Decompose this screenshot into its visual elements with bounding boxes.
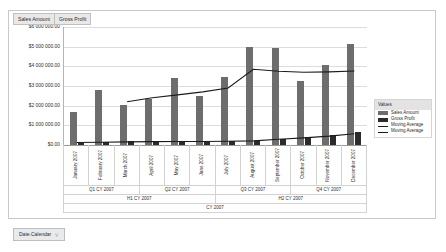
measure-pill-sales-amount[interactable]: Sales Amount (13, 13, 55, 25)
x-axis-group-cell[interactable]: Q4 CY 2007 (291, 186, 367, 195)
x-axis-label: Q3 CY 2007 (241, 188, 266, 193)
x-axis-month-cell[interactable]: June 2007 (190, 145, 215, 186)
x-axis-month-cell[interactable]: July 2007 (216, 145, 241, 186)
legend-items: Sales AmountGross ProfitMoving AverageMo… (375, 110, 431, 134)
x-axis-quarters-row: Q1 CY 2007Q2 CY 2007Q3 CY 2007Q4 CY 2007 (63, 186, 367, 195)
legend-bar-swatch-icon (378, 111, 388, 115)
x-axis-month-cell[interactable]: April 2007 (140, 145, 165, 186)
x-axis-label: July 2007 (225, 155, 230, 175)
x-axis-label: February 2007 (99, 150, 104, 180)
legend-line-swatch-icon (378, 132, 388, 133)
x-axis-hierarchy: January 2007February 2007March 2007April… (63, 145, 367, 213)
x-axis-month-cell[interactable]: January 2007 (63, 145, 89, 186)
y-axis-tick-label: $1 000 000.00 (29, 123, 60, 128)
legend-item[interactable]: Moving Average (375, 128, 431, 134)
x-axis-group-cell[interactable]: H2 CY 2007 (216, 195, 368, 204)
x-axis-label: October 2007 (301, 151, 306, 179)
x-axis-month-cell[interactable]: March 2007 (115, 145, 140, 186)
measure-pill-gross-profit[interactable]: Gross Profit (55, 13, 91, 25)
legend-line-swatch-icon (378, 126, 388, 127)
x-axis-label: September 2007 (276, 148, 281, 182)
moving-average-lines (64, 27, 367, 145)
x-axis-month-cell[interactable]: October 2007 (291, 145, 316, 186)
y-axis-tick-label: $0.00 (48, 143, 60, 148)
x-axis-group-cell[interactable]: Q1 CY 2007 (63, 186, 140, 195)
x-axis-label: June 2007 (200, 154, 205, 175)
x-axis-month-cell[interactable]: December 2007 (342, 145, 367, 186)
x-axis-label: Q4 CY 2007 (316, 188, 341, 193)
x-axis-label: December 2007 (352, 149, 357, 182)
x-axis-group-cell[interactable]: CY 2007 (63, 204, 367, 213)
x-axis-label: CY 2007 (206, 206, 223, 211)
filter-hierarchy-icon[interactable]: ⑂ (55, 232, 59, 238)
x-axis-month-cell[interactable]: May 2007 (165, 145, 190, 186)
y-axis-tick-label: $3 000 000.00 (29, 84, 60, 89)
legend-label: Gross Profit (391, 117, 415, 122)
x-axis-year-row: CY 2007 (63, 204, 367, 213)
x-axis-label: March 2007 (124, 153, 129, 177)
y-axis-tick-label: $4 000 000.00 (29, 64, 60, 69)
x-axis-month-cell[interactable]: August 2007 (241, 145, 266, 186)
y-axis-tick-label: $6 000 000.00 (29, 25, 60, 30)
legend-label: Moving Average (391, 123, 423, 128)
moving-average-line-1 (127, 69, 354, 101)
x-axis-label: Q1 CY 2007 (89, 188, 114, 193)
x-axis-label: April 2007 (150, 155, 155, 176)
y-axis: $6 000 000.00$5 000 000.00$4 000 000.00$… (8, 27, 60, 145)
chart-screenshot: Sales Amount Gross Profit $6 000 000.00$… (0, 0, 446, 252)
plot-area (63, 27, 367, 145)
x-axis-label: May 2007 (175, 155, 180, 175)
x-axis-month-cell[interactable]: September 2007 (266, 145, 291, 186)
x-axis-label: January 2007 (74, 151, 79, 179)
y-axis-tick-label: $5 000 000.00 (29, 44, 60, 49)
date-calendar-chip[interactable]: Date.Calendar ⑂ (13, 228, 65, 241)
x-axis-label: November 2007 (326, 149, 331, 182)
legend-label: Sales Amount (391, 111, 419, 116)
x-axis-label: H1 CY 2007 (127, 197, 151, 202)
x-axis-months-row: January 2007February 2007March 2007April… (63, 145, 367, 186)
date-calendar-label: Date.Calendar (19, 232, 51, 237)
x-axis-group-cell[interactable]: H1 CY 2007 (63, 195, 216, 204)
x-axis-label: H2 CY 2007 (279, 197, 303, 202)
legend-label: Moving Average (391, 129, 423, 134)
y-axis-tick-label: $2 000 000.00 (29, 103, 60, 108)
x-axis-month-cell[interactable]: February 2007 (89, 145, 114, 186)
x-axis-halves-row: H1 CY 2007H2 CY 2007 (63, 195, 367, 204)
x-axis-group-cell[interactable]: Q2 CY 2007 (140, 186, 216, 195)
x-axis-group-cell[interactable]: Q3 CY 2007 (216, 186, 292, 195)
legend-bar-swatch-icon (378, 118, 388, 122)
legend: Values Sales AmountGross ProfitMoving Av… (374, 99, 432, 138)
x-axis-label: August 2007 (251, 152, 256, 178)
legend-title: Values (375, 100, 431, 110)
x-axis-month-cell[interactable]: November 2007 (317, 145, 342, 186)
measure-pill-bar: Sales Amount Gross Profit (13, 13, 91, 25)
moving-average-line-2 (77, 134, 355, 143)
x-axis-label: Q2 CY 2007 (165, 188, 190, 193)
